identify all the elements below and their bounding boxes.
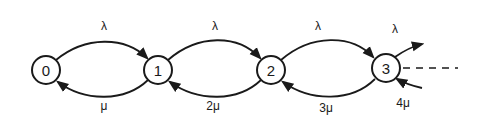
state-1-label: 1	[154, 62, 162, 79]
rate-label-3-2: 3μ	[319, 101, 333, 115]
state-0-label: 0	[42, 62, 50, 79]
rate-label-2-1: 2μ	[206, 99, 220, 113]
edge-3-to-next	[395, 44, 422, 57]
edge-3-to-2	[283, 79, 375, 97]
rate-label-0-1: λ	[101, 19, 107, 33]
edge-0-to-1	[56, 42, 147, 60]
rate-label-next-3: 4μ	[396, 96, 410, 110]
state-2: 2	[257, 56, 285, 84]
rate-label-2-3: λ	[315, 19, 321, 33]
birth-death-diagram: 0 1 2 3 λ λ λ λ μ 2μ 3μ 4μ	[0, 0, 483, 117]
rate-label-1-2: λ	[212, 19, 218, 33]
edge-2-to-1	[170, 80, 261, 97]
edge-next-to-3	[397, 79, 422, 88]
state-3: 3	[372, 54, 400, 82]
rate-label-1-0: μ	[101, 99, 108, 113]
edge-1-to-0	[58, 80, 148, 97]
state-3-label: 3	[382, 60, 390, 77]
state-2-label: 2	[267, 62, 275, 79]
edge-2-to-3	[281, 40, 373, 60]
edge-1-to-2	[168, 40, 260, 60]
state-0: 0	[32, 56, 60, 84]
rate-label-3-next: λ	[392, 22, 398, 36]
state-1: 1	[144, 56, 172, 84]
